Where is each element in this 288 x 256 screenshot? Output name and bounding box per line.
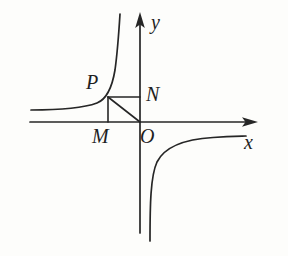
math-figure: P N M O y x (0, 0, 288, 256)
x-axis-label: x (244, 132, 253, 152)
point-label-M: M (92, 126, 109, 146)
point-label-N: N (146, 84, 159, 104)
segment-PO-diagonal (108, 97, 140, 122)
y-axis-label: y (151, 12, 160, 32)
origin-label-O: O (140, 126, 154, 146)
point-label-P: P (86, 72, 98, 92)
hyperbola-branch-lower-right (150, 136, 246, 241)
hyperbola-branch-upper-left (31, 14, 120, 110)
